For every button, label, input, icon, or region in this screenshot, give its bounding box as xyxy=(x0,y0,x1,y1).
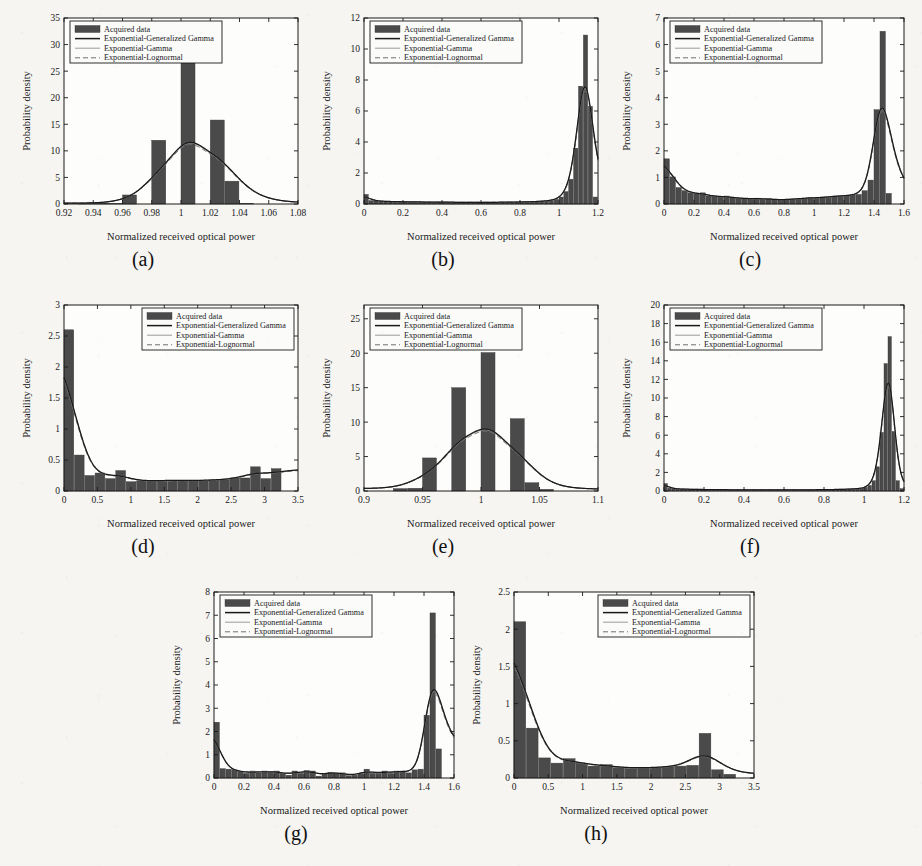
x-tick-label: 1 xyxy=(557,208,562,218)
histogram-bar xyxy=(251,467,261,491)
y-tick-label: 12 xyxy=(351,13,361,23)
x-tick-label: 0.2 xyxy=(688,208,700,218)
y-axis-label: Probability density xyxy=(321,70,332,150)
y-axis-label: Probability density xyxy=(621,70,632,150)
x-tick-label: 1.02 xyxy=(202,208,219,218)
y-tick-label: 5 xyxy=(355,452,360,462)
histogram-bar xyxy=(892,431,895,491)
y-tick-label: 0 xyxy=(655,486,660,496)
histogram-bar xyxy=(664,484,667,491)
legend-label: Exponential-Lognormal xyxy=(404,340,483,349)
y-tick-label: 7 xyxy=(655,13,660,23)
x-tick-label: 0.94 xyxy=(85,208,102,218)
chart-panel-g: 00.20.40.60.811.21.41.6012345678Normaliz… xyxy=(168,582,464,820)
x-tick-label: 1.1 xyxy=(592,495,604,505)
y-tick-label: 4 xyxy=(655,449,660,459)
legend-label: Exponential-Generalized Gamma xyxy=(704,321,814,330)
legend-label: Exponential-Generalized Gamma xyxy=(404,321,514,330)
legend-swatch-acquired-data xyxy=(675,26,700,33)
panel-caption-h: (h) xyxy=(566,822,626,845)
x-tick-label: 0.4 xyxy=(436,208,448,218)
x-tick-label: 1.2 xyxy=(898,495,910,505)
histogram-bar xyxy=(748,199,753,204)
x-tick-label: 0.6 xyxy=(748,208,760,218)
histogram-bar xyxy=(814,198,819,204)
x-tick-label: 0.5 xyxy=(91,495,103,505)
x-tick-label: 1 xyxy=(812,208,817,218)
histogram-bar xyxy=(178,480,188,491)
y-tick-label: 0 xyxy=(55,486,60,496)
x-axis-label: Normalized received optical power xyxy=(107,518,255,529)
y-tick-label: 14 xyxy=(651,356,661,366)
y-tick-label: 4 xyxy=(655,93,660,103)
histogram-bar xyxy=(574,148,578,204)
histogram-bar xyxy=(554,199,558,204)
x-tick-label: 1.6 xyxy=(898,208,910,218)
x-tick-label: 0.95 xyxy=(414,495,431,505)
histogram-bar xyxy=(225,181,239,204)
x-tick-label: 0.4 xyxy=(738,495,750,505)
legend: Acquired dataExponential-Generalized Gam… xyxy=(670,21,822,63)
x-tick-label: 3 xyxy=(262,495,267,505)
histogram-bar xyxy=(670,177,675,204)
y-tick-label: 3 xyxy=(205,704,210,714)
legend-swatch-acquired-data xyxy=(603,600,628,607)
x-tick-label: 3.5 xyxy=(748,782,760,792)
x-tick-label: 2.5 xyxy=(679,782,691,792)
x-tick-label: 0 xyxy=(362,208,367,218)
chart-panel-c: 00.20.40.60.811.21.41.601234567Normalize… xyxy=(618,8,914,246)
histogram-bar xyxy=(551,763,563,778)
histogram-bar xyxy=(711,770,723,778)
histogram-bar xyxy=(613,768,625,778)
histogram-bar xyxy=(884,364,887,491)
y-axis-label: Probability density xyxy=(171,644,182,724)
x-tick-label: 0.4 xyxy=(718,208,730,218)
histogram-bar xyxy=(219,480,229,491)
histogram-bar xyxy=(364,194,368,204)
y-tick-label: 0 xyxy=(205,773,210,783)
x-tick-label: 1.5 xyxy=(158,495,170,505)
x-tick-label: 0.5 xyxy=(542,782,554,792)
x-tick-label: 0 xyxy=(662,208,667,218)
histogram-bar xyxy=(436,749,441,778)
histogram-bar xyxy=(838,196,843,204)
histogram-bar xyxy=(682,191,687,204)
legend-label: Exponential-Lognormal xyxy=(704,53,783,62)
legend-label: Exponential-Gamma xyxy=(704,44,773,53)
legend-swatch-acquired-data xyxy=(225,600,250,607)
legend: Acquired dataExponential-Generalized Gam… xyxy=(370,308,522,350)
x-tick-label: 1.06 xyxy=(260,208,277,218)
y-tick-label: 4 xyxy=(205,680,210,690)
histogram-bar xyxy=(724,774,736,778)
x-tick-label: 0.8 xyxy=(514,208,526,218)
y-axis-label: Probability density xyxy=(21,70,32,150)
y-tick-label: 8 xyxy=(205,587,210,597)
histogram-bar xyxy=(850,195,855,204)
x-tick-label: 2 xyxy=(649,782,654,792)
y-tick-label: 10 xyxy=(351,418,361,428)
y-tick-label: 0 xyxy=(505,773,510,783)
y-tick-label: 3 xyxy=(655,120,660,130)
x-tick-label: 0.9 xyxy=(358,495,370,505)
y-tick-label: 18 xyxy=(651,319,661,329)
y-tick-label: 8 xyxy=(355,75,360,85)
panel-caption-c: (c) xyxy=(720,248,780,271)
y-axis-label: Probability density xyxy=(621,357,632,437)
histogram-bar xyxy=(664,159,669,204)
y-tick-label: 20 xyxy=(351,349,361,359)
y-tick-label: 0 xyxy=(655,199,660,209)
panel-caption-a: (a) xyxy=(113,248,173,271)
histogram-bar xyxy=(718,197,723,204)
histogram-bar xyxy=(116,471,126,491)
histogram-bar xyxy=(525,483,539,491)
chart-panel-h: 00.511.522.533.500.511.522.5Normalized r… xyxy=(468,582,764,820)
legend: Acquired dataExponential-Generalized Gam… xyxy=(220,595,372,637)
histogram-bar xyxy=(406,773,411,778)
histogram-bar xyxy=(712,196,717,204)
histogram-bar xyxy=(569,179,573,204)
histogram-bar xyxy=(784,199,789,204)
panel-caption-d: (d) xyxy=(113,535,173,558)
histogram-bar xyxy=(481,353,495,491)
histogram-bar xyxy=(790,199,795,204)
y-tick-label: 6 xyxy=(655,431,660,441)
